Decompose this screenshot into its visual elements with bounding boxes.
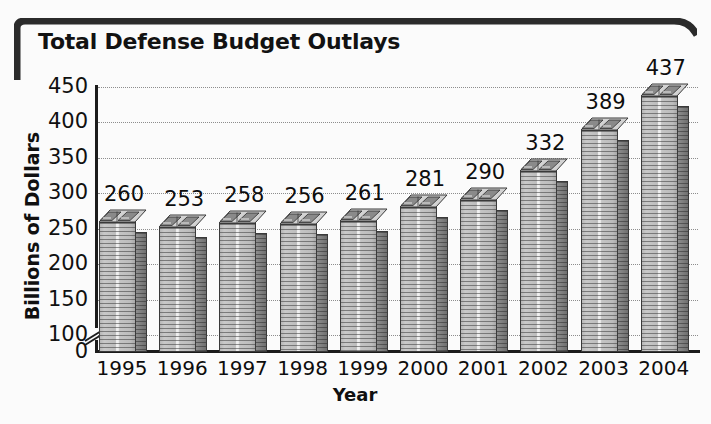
- gridline: [98, 87, 698, 89]
- bar-side-face: [557, 181, 568, 352]
- bar-side-face: [256, 233, 267, 352]
- bar-front-face: [159, 227, 196, 352]
- bar-front-face: [520, 171, 557, 352]
- bar-side-face: [136, 232, 147, 352]
- x-tick-label: 1999: [332, 356, 394, 380]
- x-axis-title: Year: [290, 384, 420, 405]
- money-stack-icon: [520, 158, 568, 172]
- bar-side-face: [317, 234, 328, 352]
- bar-front-face: [340, 221, 377, 352]
- bar-front-face: [99, 222, 136, 352]
- bar-side-face: [497, 210, 508, 352]
- x-tick-label: 1997: [211, 356, 273, 380]
- bar-front-face: [581, 130, 618, 352]
- bar-front-face: [400, 207, 437, 352]
- x-tick-label: 1995: [91, 356, 153, 380]
- bar-value-label: 332: [509, 131, 581, 155]
- bar-side-face: [377, 231, 388, 352]
- x-tick-label: 1998: [272, 356, 334, 380]
- x-tick-label: 2002: [512, 356, 574, 380]
- bar-front-face: [219, 223, 256, 352]
- y-axis-title: Billions of Dollars: [21, 111, 43, 341]
- bar-value-label: 290: [449, 160, 521, 184]
- y-axis-line: [95, 85, 98, 328]
- bar-side-face: [196, 237, 207, 352]
- x-tick-label: 1996: [151, 356, 213, 380]
- money-stack-icon: [460, 187, 508, 201]
- bar-front-face: [641, 96, 678, 352]
- money-stack-icon: [641, 83, 689, 97]
- money-stack-icon: [340, 208, 388, 222]
- money-stack-icon: [280, 211, 328, 225]
- money-stack-icon: [581, 117, 629, 131]
- bar-value-label: 437: [630, 56, 702, 80]
- bar-value-label: 389: [570, 90, 642, 114]
- money-stack-icon: [219, 210, 267, 224]
- bar-front-face: [280, 224, 317, 352]
- money-stack-icon: [400, 194, 448, 208]
- x-tick-label: 2004: [633, 356, 695, 380]
- bar-side-face: [437, 217, 448, 352]
- x-tick-label: 2001: [452, 356, 514, 380]
- bar-side-face: [678, 106, 689, 352]
- money-stack-icon: [99, 209, 147, 223]
- x-tick-label: 2000: [392, 356, 454, 380]
- y-tick-label: 450: [34, 74, 88, 98]
- x-tick-label: 2003: [573, 356, 635, 380]
- bar-front-face: [460, 200, 497, 352]
- bar-side-face: [618, 140, 629, 352]
- money-stack-icon: [159, 214, 207, 228]
- chart-plot-area: 0100150200250300350400450 Billions of Do…: [0, 0, 711, 424]
